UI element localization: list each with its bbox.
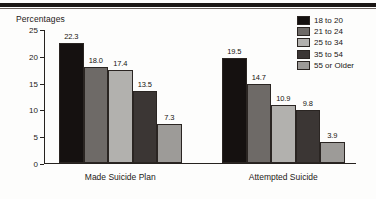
legend-label: 21 to 24 bbox=[314, 27, 343, 36]
bar-value-label: 14.7 bbox=[252, 73, 266, 82]
bar-value-label: 9.8 bbox=[303, 99, 313, 108]
x-axis-category-label: Attempted Suicide bbox=[249, 172, 318, 182]
y-tick-mark bbox=[40, 57, 44, 58]
bar-value-label: 18.0 bbox=[89, 56, 103, 65]
legend-swatch bbox=[297, 16, 310, 25]
bar bbox=[84, 67, 109, 163]
top-rule-secondary bbox=[0, 8, 376, 9]
bar-value-label: 10.9 bbox=[276, 94, 290, 103]
legend-item: 55 or Older bbox=[297, 60, 354, 71]
legend-item: 35 to 54 bbox=[297, 49, 354, 60]
y-tick-label: 0 bbox=[34, 160, 38, 169]
chart-legend: 18 to 2021 to 2425 to 3435 to 5455 or Ol… bbox=[297, 15, 354, 71]
legend-label: 35 to 54 bbox=[314, 50, 343, 59]
bar bbox=[320, 142, 345, 163]
y-tick-label: 10 bbox=[29, 106, 38, 115]
y-tick-label: 5 bbox=[34, 133, 38, 142]
bar bbox=[59, 43, 84, 163]
bar bbox=[157, 124, 182, 163]
legend-label: 18 to 20 bbox=[314, 16, 343, 25]
bar bbox=[133, 91, 158, 163]
bar bbox=[108, 70, 133, 163]
x-axis-line bbox=[44, 163, 356, 164]
legend-item: 21 to 24 bbox=[297, 26, 354, 37]
bar-value-label: 13.5 bbox=[138, 80, 152, 89]
y-tick-label: 20 bbox=[29, 52, 38, 61]
bar-value-label: 22.3 bbox=[64, 32, 78, 41]
bar bbox=[296, 110, 321, 163]
y-tick-mark bbox=[40, 164, 44, 165]
legend-swatch bbox=[297, 50, 310, 59]
y-tick-mark bbox=[40, 110, 44, 111]
bar bbox=[222, 58, 247, 163]
legend-label: 55 or Older bbox=[314, 61, 354, 70]
y-tick-label: 15 bbox=[29, 79, 38, 88]
y-axis-caption: Percentages bbox=[16, 14, 65, 24]
bar-value-label: 17.4 bbox=[113, 59, 127, 68]
y-axis-line bbox=[44, 30, 45, 164]
top-rule bbox=[0, 3, 376, 7]
legend-item: 18 to 20 bbox=[297, 15, 354, 26]
legend-swatch bbox=[297, 61, 310, 70]
x-axis-category-label: Made Suicide Plan bbox=[85, 172, 156, 182]
bar-value-label: 7.3 bbox=[164, 113, 174, 122]
bar-value-label: 19.5 bbox=[227, 47, 241, 56]
chart-figure: Percentages 0510152025 22.318.017.413.57… bbox=[0, 0, 376, 199]
legend-label: 25 to 34 bbox=[314, 38, 343, 47]
bar-value-label: 3.9 bbox=[327, 131, 337, 140]
legend-swatch bbox=[297, 38, 310, 47]
bar bbox=[247, 84, 272, 163]
y-tick-mark bbox=[40, 137, 44, 138]
y-tick-mark bbox=[40, 84, 44, 85]
bar bbox=[271, 105, 296, 163]
y-tick-label: 25 bbox=[29, 26, 38, 35]
legend-item: 25 to 34 bbox=[297, 37, 354, 48]
y-tick-mark bbox=[40, 30, 44, 31]
legend-swatch bbox=[297, 27, 310, 36]
